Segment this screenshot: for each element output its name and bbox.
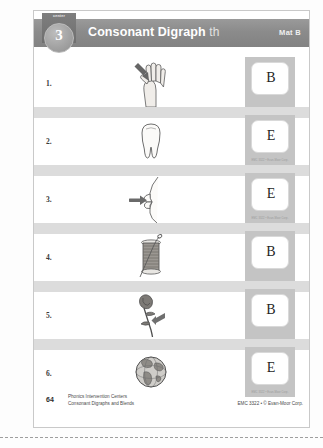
answer-card[interactable]: E EMC 3322 • Evan-Moor Corp. [245, 347, 295, 397]
hand-thumb-icon [120, 57, 182, 111]
answer-card[interactable]: B [245, 57, 295, 107]
worksheet-page: Consonant Digraph th Mat B center 3 1. [33, 10, 310, 428]
answer-card[interactable]: B [245, 289, 295, 339]
row-number: 6. [46, 369, 52, 378]
answer-letter: B [252, 70, 290, 86]
thread-spool-icon [120, 231, 182, 285]
answer-letter: B [252, 244, 290, 260]
worksheet-row: 2. E EMC 3322 • Evan-Moor Corp. [34, 113, 310, 171]
tooth-icon [120, 115, 182, 169]
card-code: EMC 3322 • Evan-Moor Corp. [245, 217, 295, 220]
row-number: 3. [46, 195, 52, 204]
answer-card-inner: B [251, 62, 289, 95]
card-code: EMC 3322 • Evan-Moor Corp. [245, 159, 295, 162]
badge-label: center [42, 14, 76, 18]
answer-card-inner: E [251, 178, 289, 211]
mat-label: Mat B [279, 28, 301, 37]
page-title: Consonant Digraph th [88, 25, 219, 39]
answer-card-inner: B [251, 236, 289, 269]
footer-series-line2: Consonant Digraphs and Blends [68, 401, 134, 408]
answer-card[interactable]: E EMC 3322 • Evan-Moor Corp. [245, 173, 295, 223]
footer-page-number: 64 [46, 396, 54, 403]
page-title-main: Consonant Digraph [88, 25, 206, 39]
page-title-sound: th [209, 25, 219, 39]
worksheet-row: 5. [34, 287, 310, 345]
answer-letter: E [252, 186, 290, 202]
footer-series-line1: Phonics Intervention Centers [68, 394, 134, 401]
cut-line [0, 437, 323, 438]
footer-series: Phonics Intervention Centers Consonant D… [68, 394, 134, 407]
mouth-lips-icon [120, 173, 182, 227]
answer-card-inner: E [251, 352, 289, 385]
answer-card-inner: B [251, 294, 289, 327]
badge-number: 3 [44, 27, 74, 44]
answer-letter: E [252, 128, 290, 144]
row-number: 4. [46, 253, 52, 262]
answer-card-inner: E [251, 120, 289, 153]
rose-thorn-icon [120, 289, 182, 343]
worksheet-row: 1. [34, 55, 310, 113]
page-footer: 64 Phonics Intervention Centers Consonan… [34, 393, 310, 419]
answer-letter: B [252, 302, 290, 318]
worksheet-sheet: Consonant Digraph th Mat B center 3 1. [0, 0, 323, 448]
row-number: 1. [46, 79, 52, 88]
row-number: 5. [46, 311, 52, 320]
center-number-badge: center 3 [42, 13, 76, 57]
answer-letter: E [252, 360, 290, 376]
answer-card[interactable]: B [245, 231, 295, 281]
answer-card[interactable]: E EMC 3322 • Evan-Moor Corp. [245, 115, 295, 165]
worksheet-row: 3. E EMC 3322 • [34, 171, 310, 229]
row-number: 2. [46, 137, 52, 146]
footer-copyright: EMC 3322 • © Evan-Moor Corp. [237, 401, 303, 406]
worksheet-row: 4. B [34, 229, 310, 287]
